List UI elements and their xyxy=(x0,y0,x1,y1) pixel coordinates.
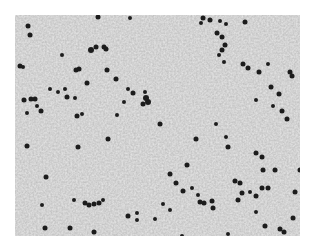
stained-cell xyxy=(217,53,221,57)
stained-cell xyxy=(168,208,172,212)
stained-cell xyxy=(285,117,290,122)
stained-cell xyxy=(114,77,119,82)
stained-cell xyxy=(223,43,228,48)
stained-cell xyxy=(269,85,274,90)
stained-cell xyxy=(202,201,207,206)
stained-cell xyxy=(158,122,163,127)
micrograph-image xyxy=(15,15,300,236)
stained-cell xyxy=(94,45,99,50)
stained-cell xyxy=(105,68,110,73)
stained-cell xyxy=(293,190,298,195)
stained-cell xyxy=(72,198,76,202)
stained-cell xyxy=(257,70,262,75)
red-cell-texture xyxy=(15,15,300,236)
stained-cell xyxy=(260,155,265,160)
stained-cell xyxy=(254,194,259,199)
stained-cell xyxy=(126,214,131,219)
stained-cell xyxy=(220,48,225,53)
stained-cell xyxy=(33,97,38,102)
stained-cell xyxy=(243,20,248,25)
stained-cell xyxy=(246,66,251,71)
stained-cell xyxy=(128,16,132,20)
stained-cell xyxy=(174,181,179,186)
stained-cell xyxy=(226,232,230,236)
stained-cell xyxy=(22,98,27,103)
stained-cell xyxy=(56,90,60,94)
stained-cell xyxy=(48,87,52,91)
stained-cell xyxy=(194,137,199,142)
stained-cell xyxy=(260,186,265,191)
stained-cell xyxy=(280,109,285,114)
stained-cell xyxy=(77,67,82,72)
stained-cell xyxy=(143,90,147,94)
stained-cell xyxy=(222,60,226,64)
stained-cell xyxy=(40,203,44,207)
stained-cell xyxy=(153,217,157,221)
stained-cell xyxy=(92,202,97,207)
stained-cell xyxy=(226,145,231,150)
stained-cell xyxy=(87,203,92,208)
stained-cell xyxy=(88,47,94,53)
blood-smear-svg xyxy=(15,15,300,236)
stained-cell xyxy=(254,210,258,214)
stained-cell xyxy=(208,18,213,23)
stained-cell xyxy=(254,151,259,156)
stained-cell xyxy=(39,109,44,114)
stained-cell xyxy=(220,35,225,40)
stained-cell xyxy=(266,62,270,66)
stained-cell xyxy=(85,81,90,86)
stained-cell xyxy=(201,16,206,21)
stained-cell xyxy=(290,74,295,79)
stained-cell xyxy=(131,91,136,96)
stained-cell xyxy=(161,202,165,206)
stained-cell xyxy=(75,114,80,119)
stained-cell xyxy=(273,168,278,173)
stained-cell xyxy=(196,193,200,197)
stained-cell xyxy=(240,191,245,196)
stained-cell xyxy=(224,135,228,139)
stained-cell xyxy=(238,181,243,186)
stained-cell xyxy=(126,87,130,91)
stained-cell xyxy=(21,65,25,69)
stained-cell xyxy=(282,230,287,235)
stained-cell xyxy=(248,190,252,194)
stained-cell xyxy=(236,198,241,203)
stained-cell xyxy=(254,98,258,102)
stained-cell xyxy=(263,224,268,229)
stained-cell xyxy=(68,226,73,231)
stained-cell xyxy=(25,144,30,149)
stained-cell xyxy=(291,216,296,221)
stained-cell xyxy=(76,145,81,150)
stained-cell xyxy=(145,99,151,105)
stained-cell xyxy=(185,163,190,168)
stained-cell xyxy=(106,137,111,142)
stained-cell xyxy=(97,201,102,206)
stained-cell xyxy=(73,96,77,100)
stained-cell xyxy=(210,199,215,204)
stained-cell xyxy=(218,19,222,23)
stained-cell xyxy=(35,104,39,108)
stained-cell xyxy=(278,227,283,232)
stained-cell xyxy=(266,186,271,191)
stained-cell xyxy=(241,62,246,67)
stained-cell xyxy=(261,168,266,173)
stained-cell xyxy=(43,226,48,231)
stained-cell xyxy=(115,113,119,117)
stained-cell xyxy=(26,24,31,29)
stained-cell xyxy=(271,104,275,108)
stained-cell xyxy=(101,198,105,202)
stained-cell xyxy=(233,179,238,184)
stained-cell xyxy=(80,112,84,116)
stained-cell xyxy=(60,53,64,57)
stained-cell xyxy=(190,186,194,190)
stained-cell xyxy=(181,189,186,194)
stained-cell xyxy=(141,102,146,107)
stained-cell xyxy=(25,111,29,115)
stained-cell xyxy=(214,122,218,126)
stained-cell xyxy=(168,172,173,177)
stained-cell xyxy=(122,100,126,104)
stained-cell xyxy=(104,47,109,52)
stained-cell xyxy=(211,206,216,211)
stained-cell xyxy=(224,22,228,26)
stained-cell xyxy=(28,33,33,38)
